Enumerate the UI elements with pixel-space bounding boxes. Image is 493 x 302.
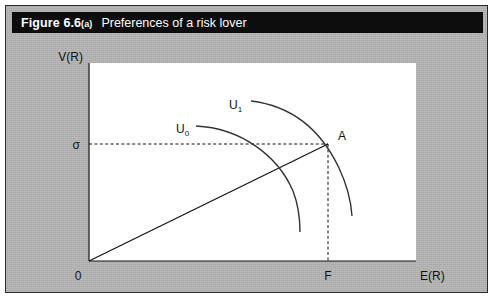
- x-axis-label: E(R): [420, 269, 445, 283]
- chart-svg: V(R) E(R) 0 σ F A U0 U1: [6, 6, 489, 294]
- figure-panel: Figure 6.6(a) Preferences of a risk love…: [5, 5, 488, 293]
- point-a-label: A: [338, 129, 346, 143]
- curve-label-u1-sub: 1: [238, 105, 243, 114]
- plot-canvas: [89, 63, 416, 261]
- curve-label-u1-base: U: [229, 98, 238, 112]
- origin-label: 0: [75, 269, 82, 283]
- plot-area: V(R) E(R) 0 σ F A U0 U1: [6, 6, 489, 294]
- curve-label-u0-base: U: [176, 122, 185, 136]
- f-tick-label: F: [324, 269, 331, 283]
- y-axis-label: V(R): [58, 50, 83, 64]
- sigma-tick-label: σ: [73, 138, 81, 152]
- curve-label-u0-sub: 0: [185, 129, 190, 138]
- figure-root: Figure 6.6(a) Preferences of a risk love…: [0, 0, 493, 302]
